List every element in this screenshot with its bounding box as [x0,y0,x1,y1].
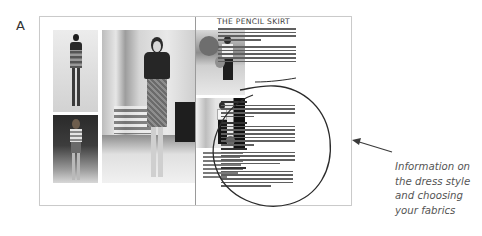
model-figure [69,34,83,108]
intro-paragraph [218,28,296,43]
model-figure [68,119,84,181]
photo-striped-top [53,115,98,183]
annotation-line: Information on [395,160,482,175]
page-title: THE PENCIL SKIRT [217,17,290,26]
arrow-left-icon [352,138,392,152]
second-paragraph [218,46,296,64]
annotation-line: and choosing [395,189,482,204]
annotation-line: your fabrics [395,204,482,219]
photo-main-pencil-skirt [102,30,195,183]
book-spread [39,16,352,206]
annotation-line: the dress style [395,175,482,190]
section-characteristics [221,101,295,119]
section-styling-tips [221,167,293,189]
callout-annotation: Information on the dress style and choos… [395,160,482,218]
section-suitable-fabrics [221,148,295,166]
photo-strapless-dress [53,30,98,112]
figure-label: A [16,18,25,33]
model-figure [142,32,172,182]
section-who-wears-it [221,122,295,148]
